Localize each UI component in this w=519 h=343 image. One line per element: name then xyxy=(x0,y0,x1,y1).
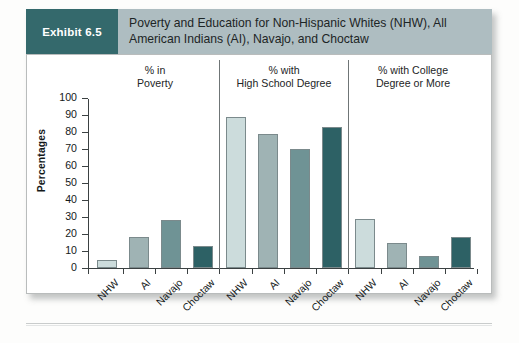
x-axis-tick xyxy=(445,269,446,274)
bar xyxy=(290,149,310,268)
x-axis-tick xyxy=(348,269,349,274)
bar xyxy=(193,246,213,268)
panel-divider xyxy=(219,60,220,273)
x-axis-baseline xyxy=(88,268,474,269)
x-axis-tick xyxy=(219,269,220,274)
exhibit-title: Poverty and Education for Non-Hispanic W… xyxy=(129,16,481,47)
panel-caption-line2: Poverty xyxy=(91,77,219,90)
panel-caption: % withHigh School Degree xyxy=(220,64,348,90)
panel-caption: % with CollegeDegree or More xyxy=(349,64,477,90)
y-axis-tick-label: 10 xyxy=(51,244,77,256)
x-axis-tick xyxy=(252,269,253,274)
y-axis-tick xyxy=(82,166,88,167)
bar xyxy=(322,127,342,268)
y-axis-line xyxy=(88,99,89,269)
x-axis-tick xyxy=(88,269,89,274)
x-axis-tick xyxy=(284,269,285,274)
x-axis-tick xyxy=(123,269,124,274)
y-axis-tick xyxy=(82,115,88,116)
y-axis-tick-label: 100 xyxy=(51,91,77,103)
y-axis-tick-label: 30 xyxy=(51,210,77,222)
page-rule xyxy=(26,323,492,324)
bar xyxy=(129,237,149,268)
x-axis-tick xyxy=(155,269,156,274)
y-axis-tick xyxy=(82,251,88,252)
panel-caption-line2: Degree or More xyxy=(349,77,477,90)
chart-frame: Percentages 0102030405060708090100 % inP… xyxy=(26,54,492,294)
panel-caption-line1: % with College xyxy=(349,64,477,77)
y-axis-tick-label: 0 xyxy=(51,261,77,273)
x-axis-tick xyxy=(413,269,414,274)
page-background: Exhibit 6.5 Poverty and Education for No… xyxy=(0,0,519,343)
y-axis-tick-label: 70 xyxy=(51,142,77,154)
bar xyxy=(97,260,117,269)
bar xyxy=(451,237,471,268)
x-axis-tick xyxy=(187,269,188,274)
y-axis-tick xyxy=(82,132,88,133)
y-axis-tick xyxy=(82,183,88,184)
x-axis-tick xyxy=(316,269,317,274)
exhibit-number-label: Exhibit 6.5 xyxy=(42,26,102,38)
exhibit-number-badge: Exhibit 6.5 xyxy=(26,9,118,54)
page-rule-secondary xyxy=(26,325,492,326)
x-axis-tick xyxy=(381,269,382,274)
y-axis-tick-label: 40 xyxy=(51,193,77,205)
y-axis-title: Percentages xyxy=(36,116,47,206)
panel-caption: % inPoverty xyxy=(91,64,219,90)
y-axis-tick xyxy=(82,98,88,99)
y-axis-tick xyxy=(82,149,88,150)
y-axis-tick xyxy=(82,234,88,235)
exhibit-header-band: Exhibit 6.5 Poverty and Education for No… xyxy=(26,9,492,54)
y-axis-tick-label: 60 xyxy=(51,159,77,171)
bar xyxy=(226,117,246,268)
exhibit-card: Exhibit 6.5 Poverty and Education for No… xyxy=(26,9,492,294)
panel-divider xyxy=(348,60,349,273)
x-axis-tick xyxy=(477,269,478,274)
bar xyxy=(387,243,407,269)
y-axis-tick-label: 20 xyxy=(51,227,77,239)
panel-caption-line1: % in xyxy=(91,64,219,77)
panel-caption-line1: % with xyxy=(220,64,348,77)
y-axis-tick-label: 80 xyxy=(51,125,77,137)
y-axis-tick-label: 90 xyxy=(51,108,77,120)
y-axis-tick-label: 50 xyxy=(51,176,77,188)
bar xyxy=(355,219,375,268)
bar xyxy=(258,134,278,268)
bar xyxy=(161,220,181,268)
y-axis-tick xyxy=(82,217,88,218)
bar xyxy=(419,256,439,268)
y-axis-tick xyxy=(82,200,88,201)
panel-caption-line2: High School Degree xyxy=(220,77,348,90)
